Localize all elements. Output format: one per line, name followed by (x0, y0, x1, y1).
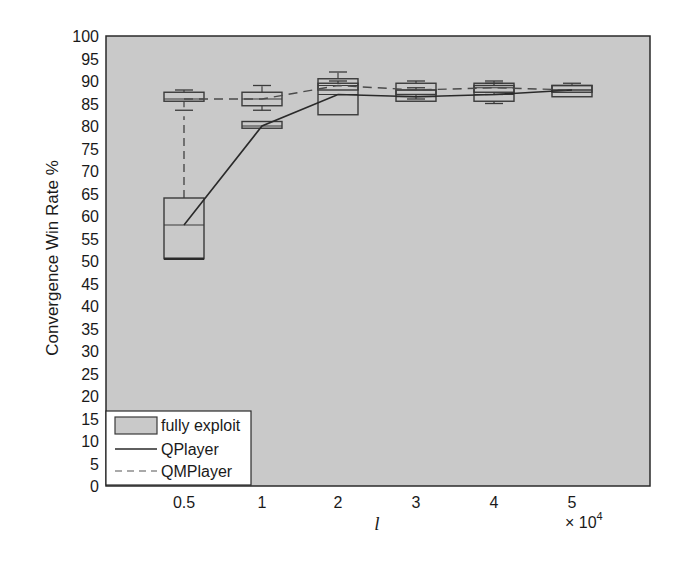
y-tick-label: 50 (81, 253, 99, 270)
x-tick-label: 3 (412, 494, 421, 511)
y-tick-label: 100 (72, 28, 99, 45)
y-tick-label: 40 (81, 298, 99, 315)
y-axis-title: Convergence Win Rate % (43, 160, 62, 356)
x-tick-label: 1 (258, 494, 267, 511)
legend-swatch-fully-exploit (115, 417, 157, 434)
x-tick-label: 4 (490, 494, 499, 511)
y-tick-label: 60 (81, 208, 99, 225)
x-tick-label: 2 (334, 494, 343, 511)
legend-label-qplayer: QPlayer (161, 441, 219, 458)
y-tick-label: 10 (81, 433, 99, 450)
legend-label-qmplayer: QMPlayer (161, 463, 233, 480)
x-axis-title: l (374, 513, 379, 534)
y-tick-label: 35 (81, 321, 99, 338)
x-tick-label: 5 (568, 494, 577, 511)
y-tick-label: 90 (81, 73, 99, 90)
x-multiplier: × 104 (565, 510, 603, 531)
y-tick-label: 70 (81, 163, 99, 180)
y-tick-label: 5 (90, 456, 99, 473)
legend: fully exploit QPlayer QMPlayer (106, 411, 251, 485)
y-tick-label: 30 (81, 343, 99, 360)
x-tick-label: 0.5 (173, 494, 195, 511)
y-tick-label: 65 (81, 186, 99, 203)
y-tick-label: 45 (81, 276, 99, 293)
y-tick-label: 25 (81, 366, 99, 383)
y-axis-ticks: 0510152025303540455055606570758085909510… (72, 28, 99, 495)
y-tick-label: 75 (81, 141, 99, 158)
legend-label-fully-exploit: fully exploit (161, 417, 241, 434)
box-plot-chart: 0510152025303540455055606570758085909510… (0, 0, 688, 562)
y-tick-label: 95 (81, 51, 99, 68)
y-tick-label: 20 (81, 388, 99, 405)
y-tick-label: 0 (90, 478, 99, 495)
y-tick-label: 80 (81, 118, 99, 135)
y-tick-label: 55 (81, 231, 99, 248)
x-axis-ticks: 0.512345 (173, 494, 577, 511)
y-tick-label: 85 (81, 96, 99, 113)
y-tick-label: 15 (81, 411, 99, 428)
